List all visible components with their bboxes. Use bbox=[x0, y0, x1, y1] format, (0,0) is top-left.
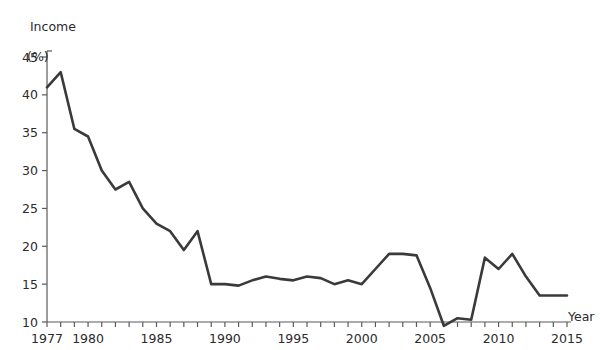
x-axis-tick-label: 1980 bbox=[72, 331, 104, 346]
y-axis-tick-label: 30 bbox=[22, 163, 38, 178]
y-axis-title-unit: (%) bbox=[14, 49, 76, 64]
income-line-chart: Income (%) Year 1015202530354045 1977198… bbox=[0, 0, 600, 350]
x-axis-tick-label: 1995 bbox=[277, 331, 309, 346]
y-axis-title: Income (%) bbox=[14, 4, 76, 94]
x-axis-tick-label: 2000 bbox=[346, 331, 378, 346]
plot-area: 1015202530354045 19771980198519901995200… bbox=[0, 0, 600, 350]
x-axis-tick-label: 1977 bbox=[31, 331, 63, 346]
y-axis-tick-label: 35 bbox=[22, 125, 38, 140]
x-axis-tick-label: 2010 bbox=[483, 331, 515, 346]
data-series-income bbox=[47, 72, 567, 326]
x-axis-tick-label: 1990 bbox=[209, 331, 241, 346]
x-axis-tick-label: 2005 bbox=[414, 331, 446, 346]
y-axis-title-name: Income bbox=[30, 19, 76, 34]
y-axis-tick-label: 20 bbox=[22, 239, 38, 254]
income-line bbox=[47, 72, 567, 326]
x-axis-tick-label: 2015 bbox=[551, 331, 583, 346]
y-axis-tick-label: 10 bbox=[22, 315, 38, 330]
x-axis: 197719801985199019952000200520102015 bbox=[31, 322, 583, 346]
y-axis-tick-label: 15 bbox=[22, 277, 38, 292]
x-axis-title: Year bbox=[568, 309, 594, 324]
y-axis-tick-label: 25 bbox=[22, 201, 38, 216]
x-axis-tick-label: 1985 bbox=[141, 331, 173, 346]
